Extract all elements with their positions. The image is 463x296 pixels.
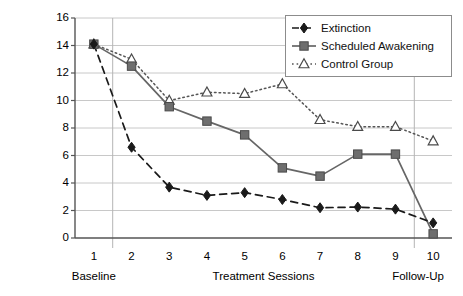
data-point-marker [278,164,286,172]
data-point-marker [299,59,309,68]
data-point-marker [316,172,324,180]
data-point-marker [300,23,307,33]
data-point-marker [240,131,248,139]
data-point-marker [429,230,437,238]
legend-label: Extinction [321,22,371,34]
data-point-marker [428,136,438,145]
data-point-marker [203,117,211,125]
legend-label: Control Group [321,58,393,70]
legend-label: Scheduled Awakening [321,40,434,52]
data-point-marker [300,42,308,50]
data-point-marker [279,195,286,205]
data-point-marker [241,188,248,198]
data-point-marker [127,62,135,70]
data-point-marker [430,218,437,228]
data-point-marker [316,203,323,213]
legend-item-scheduled-awakening[interactable]: Scheduled Awakening [286,37,451,55]
data-point-marker [277,79,287,88]
data-point-marker [392,204,399,214]
data-point-marker [202,87,212,96]
chart-figure: Frequency of Nighttime Waking per Week 0… [0,0,463,296]
data-point-marker [391,150,399,158]
legend-marker-icon [291,21,317,35]
data-point-marker [203,190,210,200]
data-point-marker [354,150,362,158]
legend-item-extinction[interactable]: Extinction [286,19,451,37]
legend-marker-icon [291,39,317,53]
legend-item-control-group[interactable]: Control Group [286,55,451,73]
legend-marker-icon [291,57,317,71]
data-point-marker [165,102,173,110]
chart-legend: ExtinctionScheduled AwakeningControl Gro… [285,15,452,77]
